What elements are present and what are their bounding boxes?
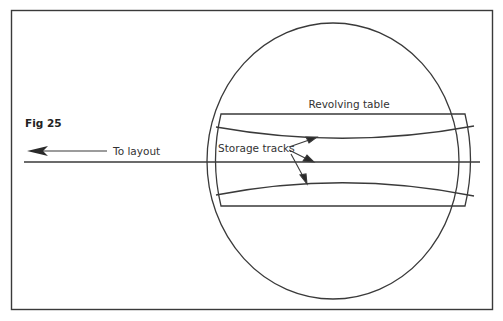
figure-number: Fig 25 <box>25 117 62 129</box>
storage-track-lower <box>216 183 474 196</box>
revolving-table-deck <box>216 114 471 206</box>
to-layout-arrow <box>27 146 107 156</box>
turntable-diagram: Fig 25 To layout Revolving table Storage… <box>0 0 503 321</box>
revolving-table-label: Revolving table <box>308 98 389 110</box>
turntable-pit-circle <box>207 23 459 299</box>
storage-track-upper <box>216 126 474 138</box>
to-layout-label: To layout <box>112 145 160 157</box>
storage-tracks-label: Storage tracks <box>218 142 295 154</box>
